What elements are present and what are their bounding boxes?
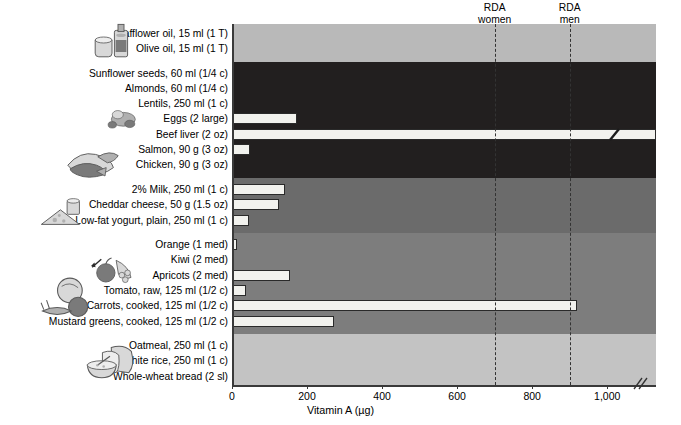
plot-area bbox=[232, 24, 656, 385]
bar-off-scale-break-icon bbox=[608, 128, 622, 141]
rda-label-women: RDAwomen bbox=[455, 2, 535, 25]
y-axis-line bbox=[232, 24, 234, 385]
bar-row bbox=[232, 315, 656, 329]
bar bbox=[232, 215, 249, 226]
x-tick-label: 0 bbox=[202, 390, 262, 402]
rda-label-line2: women bbox=[455, 14, 535, 26]
x-tick-label: 800 bbox=[502, 390, 562, 402]
x-tick bbox=[307, 385, 308, 389]
bar-row bbox=[232, 183, 656, 197]
x-tick-label: 200 bbox=[277, 390, 337, 402]
rda-label-line1: RDA bbox=[530, 2, 610, 14]
category-label: Almonds, 60 ml (1/4 c) bbox=[0, 82, 232, 96]
bar bbox=[232, 184, 285, 195]
bar bbox=[232, 129, 656, 140]
meat-and-fish-icon bbox=[38, 140, 148, 182]
bar-row bbox=[232, 299, 656, 313]
bar-row bbox=[232, 284, 656, 298]
x-tick bbox=[382, 385, 383, 389]
rda-label-line2: men bbox=[530, 14, 610, 26]
bar-row bbox=[232, 27, 656, 41]
bar-row bbox=[232, 214, 656, 228]
bar-row bbox=[232, 238, 656, 252]
bar-row bbox=[232, 82, 656, 96]
bar-row bbox=[232, 128, 656, 142]
x-tick-label: 1,000 bbox=[577, 390, 637, 402]
bar-row bbox=[232, 354, 656, 368]
x-axis-title: Vitamin A (µg) bbox=[0, 404, 681, 416]
bar-row bbox=[232, 67, 656, 81]
rda-label-line1: RDA bbox=[455, 2, 535, 14]
category-label-column: Safflower oil, 15 ml (1 T)Olive oil, 15 … bbox=[0, 24, 232, 385]
bar bbox=[232, 113, 297, 124]
bar bbox=[232, 316, 334, 327]
category-label: 2% Milk, 250 ml (1 c) bbox=[0, 183, 232, 197]
x-tick bbox=[532, 385, 533, 389]
category-label: Mustard greens, cooked, 125 ml (1/2 c) bbox=[0, 315, 232, 329]
bar bbox=[232, 270, 290, 281]
meat-fish-and-nuts-icon bbox=[104, 100, 150, 134]
rda-line-men bbox=[570, 24, 571, 385]
bar-row bbox=[232, 198, 656, 212]
cheese-and-milk-icon bbox=[38, 196, 94, 236]
bar-row bbox=[232, 97, 656, 111]
x-tick bbox=[232, 385, 233, 389]
bar-row bbox=[232, 112, 656, 126]
bread-and-oatmeal-bowl-icon bbox=[82, 340, 148, 384]
bar-row bbox=[232, 158, 656, 172]
bar-row bbox=[232, 370, 656, 384]
bar bbox=[232, 285, 246, 296]
bar-row bbox=[232, 253, 656, 267]
axis-break-icon bbox=[631, 377, 649, 391]
bar-row bbox=[232, 143, 656, 157]
rda-line-women bbox=[495, 24, 496, 385]
oil-bottle-and-cup-icon bbox=[88, 22, 148, 64]
bar-row bbox=[232, 339, 656, 353]
x-tick bbox=[457, 385, 458, 389]
bar bbox=[232, 199, 279, 210]
bar bbox=[232, 300, 577, 311]
x-tick bbox=[607, 385, 608, 389]
x-tick-label: 400 bbox=[352, 390, 412, 402]
bar-row bbox=[232, 42, 656, 56]
category-label: Sunflower seeds, 60 ml (1/4 c) bbox=[0, 67, 232, 81]
category-label: Carrots, cooked, 125 ml (1/2 c) bbox=[0, 299, 232, 313]
bar-row bbox=[232, 269, 656, 283]
vegetables-icon bbox=[36, 274, 112, 322]
category-label: Cheddar cheese, 50 g (1.5 oz) bbox=[0, 198, 232, 212]
x-tick-label: 600 bbox=[427, 390, 487, 402]
category-label: Low-fat yogurt, plain, 250 ml (1 c) bbox=[0, 214, 232, 228]
rda-label-men: RDAmen bbox=[530, 2, 610, 25]
bar bbox=[232, 144, 250, 155]
vitamin-a-food-sources-chart: Safflower oil, 15 ml (1 T)Olive oil, 15 … bbox=[0, 0, 681, 425]
x-axis-line bbox=[232, 385, 656, 387]
